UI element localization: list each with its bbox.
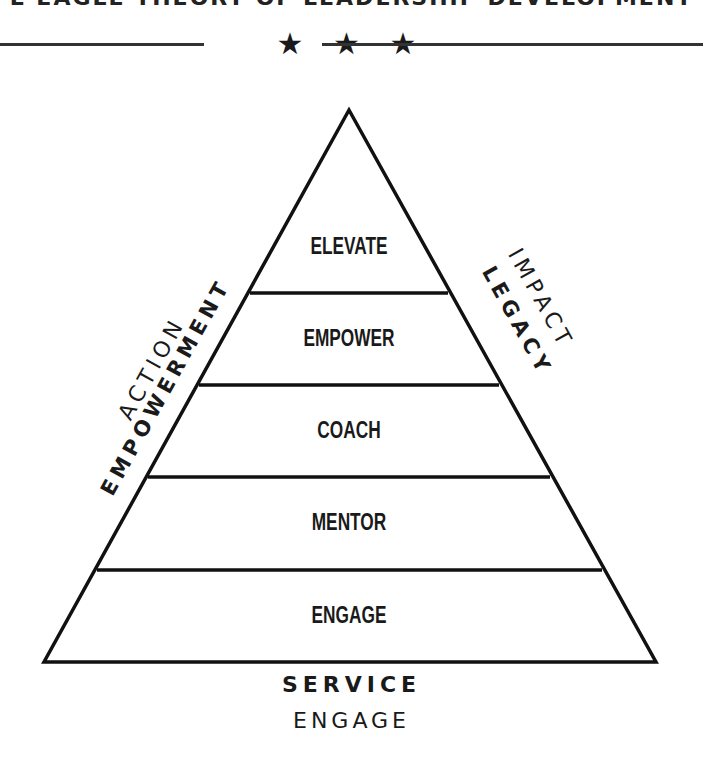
band-coach: COACH (277, 416, 421, 444)
band-elevate: ELEVATE (277, 232, 421, 260)
base-label-service: SERVICE (0, 672, 703, 697)
base-label-engage: ENGAGE (0, 708, 703, 733)
band-mentor: MENTOR (277, 508, 421, 536)
band-engage: ENGAGE (277, 601, 421, 629)
band-empower: EMPOWER (277, 324, 421, 352)
pyramid-diagram (0, 0, 703, 768)
